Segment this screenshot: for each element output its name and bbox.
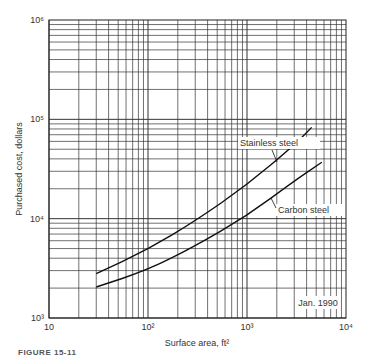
y-tick-label: 10³: [31, 313, 44, 323]
y-tick-label: 10⁵: [30, 114, 44, 124]
label-leader-line: [271, 198, 276, 208]
series-labels: Stainless steelCarbon steel: [238, 137, 342, 216]
series-label: Stainless steel: [240, 138, 298, 148]
carbon-steel-curve: [96, 162, 322, 287]
y-axis-label: Purchased cost, dollars: [14, 122, 24, 216]
x-tick-label: 10: [44, 322, 54, 332]
label-leader-line: [272, 150, 277, 162]
plot-frame: [49, 20, 346, 318]
figure-caption: FIGURE 15-11: [18, 348, 76, 357]
date-annotation: Jan. 1990: [298, 298, 338, 308]
log-log-chart: 1010²10³10⁴10³10⁴10⁵10⁶ Surface area, ft…: [0, 0, 366, 360]
x-tick-label: 10⁴: [339, 322, 353, 332]
y-tick-label: 10⁶: [30, 15, 44, 25]
x-tick-label: 10³: [240, 322, 253, 332]
x-tick-label: 10²: [141, 322, 154, 332]
grid-lines: [49, 20, 346, 318]
x-axis-label: Surface area, ft²: [165, 338, 230, 348]
y-tick-label: 10⁴: [30, 214, 44, 224]
series-label: Carbon steel: [278, 205, 329, 215]
